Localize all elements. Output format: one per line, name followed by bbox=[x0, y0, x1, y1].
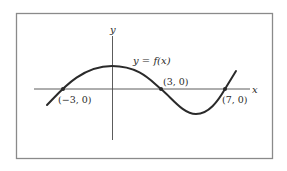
function-curve bbox=[47, 66, 236, 114]
point-marker-3 bbox=[159, 87, 163, 91]
point-marker-7 bbox=[223, 87, 227, 91]
x-axis-label: x bbox=[252, 84, 258, 95]
y-axis-label: y bbox=[109, 24, 116, 35]
figure-frame bbox=[17, 14, 273, 159]
point-marker-neg3 bbox=[61, 87, 65, 91]
graph-svg: y x y = f(x) (−3, 0) (3, 0) (7, 0) bbox=[0, 0, 287, 171]
function-graph-figure: y x y = f(x) (−3, 0) (3, 0) (7, 0) bbox=[0, 0, 287, 171]
point-label-neg3: (−3, 0) bbox=[58, 94, 92, 105]
point-label-7: (7, 0) bbox=[222, 94, 248, 105]
point-label-3: (3, 0) bbox=[163, 76, 189, 87]
curve-label: y = f(x) bbox=[132, 55, 171, 66]
